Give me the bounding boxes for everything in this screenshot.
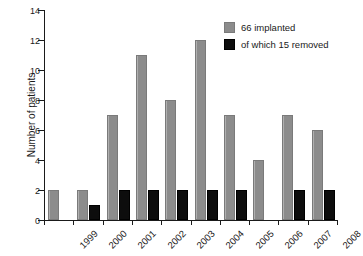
bar-removed <box>207 190 218 220</box>
x-tick-mark <box>191 220 192 225</box>
y-tick-label: 12 <box>30 36 40 45</box>
legend-label-implanted: 66 implanted <box>241 22 295 33</box>
x-tick-mark <box>44 220 45 225</box>
legend: 66 implanted of which 15 removed <box>224 19 329 53</box>
y-axis-title-host: Number of patients <box>14 10 15 220</box>
x-tick-label: 2002 <box>165 228 188 251</box>
bar-removed <box>177 190 188 220</box>
legend-item-removed: of which 15 removed <box>224 36 329 53</box>
y-tick-label: 0 <box>35 216 40 225</box>
x-tick-label: 2001 <box>136 228 159 251</box>
bar-removed <box>324 190 335 220</box>
bar-implanted <box>107 115 118 220</box>
x-tick-mark <box>103 220 104 225</box>
bar-removed <box>119 190 130 220</box>
bar-group <box>48 10 77 220</box>
x-tick-label: 2007 <box>311 228 334 251</box>
x-tick-label: 2008 <box>341 228 363 251</box>
x-tick-label: 2004 <box>223 228 246 251</box>
legend-swatch-implanted-icon <box>224 22 235 33</box>
bar-group <box>136 10 165 220</box>
legend-swatch-removed-icon <box>224 39 235 50</box>
x-tick-mark <box>73 220 74 225</box>
x-tick-mark <box>161 220 162 225</box>
bar-group <box>195 10 224 220</box>
bar-removed <box>294 190 305 220</box>
x-tick-mark <box>249 220 250 225</box>
bar-implanted <box>312 130 323 220</box>
x-tick-mark <box>337 220 338 225</box>
bar-implanted <box>195 40 206 220</box>
bar-removed <box>236 190 247 220</box>
bar-group <box>165 10 194 220</box>
x-tick-label: 1999 <box>77 228 100 251</box>
x-tick-label: 2006 <box>282 228 305 251</box>
y-tick-label: 2 <box>35 186 40 195</box>
bar-removed <box>148 190 159 220</box>
bar-implanted <box>253 160 264 220</box>
x-tick-label: 2000 <box>106 228 129 251</box>
bar-implanted <box>48 190 59 220</box>
x-tick-label: 2003 <box>194 228 217 251</box>
bar-group <box>107 10 136 220</box>
y-tick-label: 4 <box>35 156 40 165</box>
legend-item-implanted: 66 implanted <box>224 19 329 36</box>
bar-implanted <box>282 115 293 220</box>
bar-implanted <box>165 100 176 220</box>
legend-label-removed: of which 15 removed <box>241 39 329 50</box>
bar-implanted <box>136 55 147 220</box>
x-tick-mark <box>278 220 279 225</box>
bar-implanted <box>77 190 88 220</box>
x-tick-label: 2005 <box>253 228 276 251</box>
y-tick-label: 10 <box>30 66 40 75</box>
x-tick-mark <box>220 220 221 225</box>
bar-implanted <box>224 115 235 220</box>
y-tick-label: 8 <box>35 96 40 105</box>
x-tick-mark <box>132 220 133 225</box>
bar-group <box>77 10 106 220</box>
y-tick-label: 14 <box>30 6 40 15</box>
bar-removed <box>89 205 100 220</box>
y-tick-label: 6 <box>35 126 40 135</box>
x-tick-mark <box>308 220 309 225</box>
